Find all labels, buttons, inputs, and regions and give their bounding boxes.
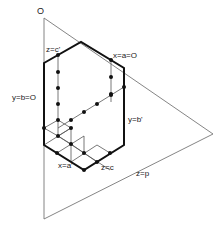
label-z-c-prime: z=c' (46, 45, 61, 54)
lattice-points (42, 53, 126, 172)
label-z-p: z=p (136, 169, 150, 178)
label-y-b-o: y=b=O (12, 93, 36, 102)
origin-label: O (37, 6, 44, 16)
label-x-a-o: x=a=O (113, 51, 137, 60)
label-x-a-prime: x=a' (58, 161, 73, 170)
label-z-c: z=c (101, 163, 114, 172)
label-y-b-prime: y=b' (128, 115, 143, 124)
diagram-canvas: O z=c' x=a=O y=b=O y=b' x=a' z=c z=p (0, 0, 222, 231)
